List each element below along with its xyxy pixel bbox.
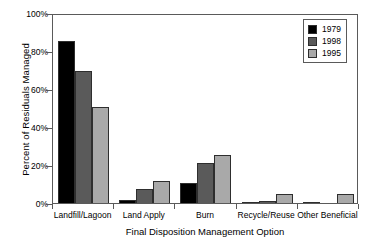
bar — [337, 194, 354, 204]
legend-item: 1998 — [308, 35, 341, 47]
bar — [119, 200, 136, 203]
y-axis-title: Percent of Residuals Managed — [20, 15, 31, 205]
x-tick-label: Recycle/Reuse — [238, 210, 295, 220]
bar — [303, 202, 320, 203]
bar — [214, 155, 231, 203]
legend-swatch-icon — [308, 37, 317, 46]
legend-label: 1995 — [322, 49, 341, 58]
y-tick-mark — [46, 14, 52, 15]
bar — [58, 41, 75, 203]
x-tick-mark — [113, 204, 114, 209]
x-tick-mark — [52, 204, 53, 209]
x-axis-title: Final Disposition Management Option — [52, 226, 358, 237]
y-tick-label: 0% — [8, 200, 48, 209]
legend-label: 1998 — [322, 37, 341, 46]
y-tick-label: 80% — [8, 48, 48, 57]
legend: 197919981995 — [303, 19, 347, 63]
x-tick-mark — [174, 204, 175, 209]
bar-group — [175, 15, 236, 203]
x-tick-mark — [297, 204, 298, 209]
bar — [276, 194, 293, 204]
bar — [242, 202, 259, 203]
bar — [75, 71, 92, 203]
legend-swatch-icon — [308, 49, 317, 58]
bar — [92, 107, 109, 203]
legend-item: 1995 — [308, 47, 341, 59]
bar-group — [53, 15, 114, 203]
x-tick-mark — [358, 204, 359, 209]
bar — [180, 183, 197, 203]
x-tick-mark — [236, 204, 237, 209]
y-tick-mark — [46, 52, 52, 53]
y-tick-label: 100% — [8, 10, 48, 19]
y-tick-label: 40% — [8, 124, 48, 133]
y-tick-mark — [46, 90, 52, 91]
legend-label: 1979 — [322, 25, 341, 34]
bar — [197, 163, 214, 203]
legend-item: 1979 — [308, 23, 341, 35]
x-tick-label: Land Apply — [123, 210, 165, 220]
bar — [153, 181, 170, 203]
bar — [259, 201, 276, 203]
bar — [136, 189, 153, 203]
bar-group — [237, 15, 298, 203]
y-tick-label: 60% — [8, 86, 48, 95]
y-tick-mark — [46, 128, 52, 129]
bar-chart: Percent of Residuals Managed 0%20%40%60%… — [0, 0, 366, 244]
legend-swatch-icon — [308, 25, 317, 34]
bar-group — [114, 15, 175, 203]
x-tick-label: Burn — [196, 210, 214, 220]
y-tick-mark — [46, 166, 52, 167]
y-tick-label: 20% — [8, 162, 48, 171]
x-tick-label: Landfill/Lagoon — [54, 210, 112, 220]
x-tick-label: Other Beneficial — [297, 210, 357, 220]
